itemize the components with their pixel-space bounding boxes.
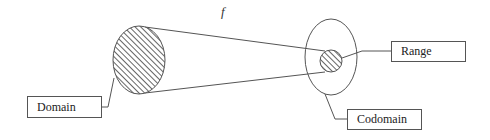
range-label: Range	[401, 44, 432, 59]
range-leader-line	[342, 51, 391, 58]
range-set	[320, 50, 342, 72]
function-label: f	[221, 4, 225, 20]
codomain-label: Codomain	[357, 112, 407, 127]
codomain-label-box: Codomain	[347, 109, 422, 130]
domain-label-box: Domain	[27, 96, 102, 118]
domain-set	[113, 26, 165, 94]
range-label-box: Range	[391, 41, 466, 62]
domain-leader-line	[102, 78, 114, 107]
mapping-line-top	[145, 27, 325, 51]
function-mapping-diagram: f Domain Range Codomain	[0, 0, 490, 140]
mapping-line-bottom	[145, 72, 325, 93]
codomain-leader-line	[325, 94, 347, 119]
domain-label: Domain	[37, 100, 76, 115]
